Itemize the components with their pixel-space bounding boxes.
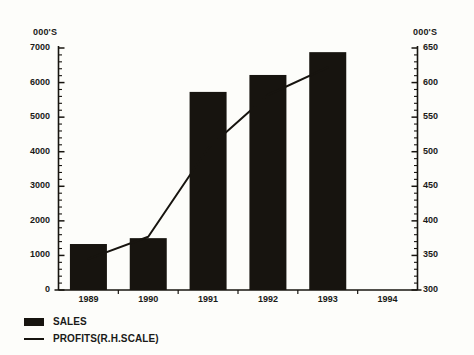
chart-legend: SALES PROFITS(R.H.SCALE) (24, 314, 159, 348)
profits-line-swatch-icon (24, 338, 44, 340)
x-axis-tick-label: 1992 (246, 294, 290, 304)
right-axis-tick-label: 400 (423, 216, 459, 225)
left-axis-tick-label: 5000 (14, 112, 50, 121)
right-axis-tick-label: 450 (423, 181, 459, 190)
sales-bar (190, 92, 227, 290)
sales-bar (70, 244, 107, 290)
legend-item-sales: SALES (24, 314, 159, 329)
x-axis-tick-label: 1989 (66, 294, 110, 304)
left-axis-tick-label: 3000 (14, 181, 50, 190)
left-axis-tick-label: 4000 (14, 147, 50, 156)
right-axis-tick-label: 350 (423, 250, 459, 259)
left-axis-tick-label: 2000 (14, 216, 50, 225)
left-axis-tick-label: 6000 (14, 78, 50, 87)
legend-item-profits: PROFITS(R.H.SCALE) (24, 331, 159, 346)
x-axis-tick-label: 1990 (126, 294, 170, 304)
right-axis-tick-label: 300 (423, 285, 459, 294)
left-axis-tick-label: 0 (14, 285, 50, 294)
sales-bar (309, 52, 346, 290)
sales-swatch-icon (24, 318, 44, 326)
sales-bar (130, 238, 167, 290)
left-axis-tick-label: 1000 (14, 250, 50, 259)
right-axis-tick-label: 600 (423, 78, 459, 87)
chart-container: 000'S 000'S 7000600050004000300020001000… (0, 0, 474, 355)
left-axis-tick-label: 7000 (14, 43, 50, 52)
axes-group (55, 46, 422, 294)
bars-group (70, 52, 346, 290)
legend-label-sales: SALES (53, 316, 87, 327)
x-axis-tick-label: 1994 (366, 294, 410, 304)
right-axis-tick-label: 550 (423, 112, 459, 121)
legend-label-profits: PROFITS(R.H.SCALE) (53, 333, 159, 344)
x-axis-tick-label: 1993 (306, 294, 350, 304)
right-axis-tick-label: 650 (423, 43, 459, 52)
right-axis-tick-label: 500 (423, 147, 459, 156)
x-axis-tick-label: 1991 (186, 294, 230, 304)
